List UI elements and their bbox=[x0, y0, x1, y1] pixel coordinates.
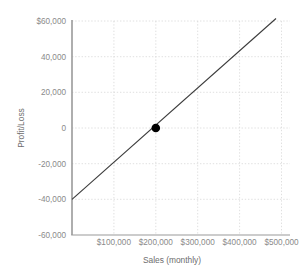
x-tick-label-100000: $100,000 bbox=[97, 238, 132, 247]
y-tick-label-60000: $60,000 bbox=[36, 17, 66, 26]
chart-canvas: $60,000 40,000 20,000 0 -20,000 -40,000 … bbox=[0, 0, 300, 278]
x-axis-title: Sales (monthly) bbox=[143, 255, 201, 265]
x-tick-label-300000: $300,000 bbox=[181, 238, 216, 247]
x-tick-labels: $100,000 $200,000 $300,000 $400,000 $500… bbox=[97, 238, 299, 247]
y-tick-label-0: 0 bbox=[61, 124, 66, 133]
y-axis-title: Profit/Loss bbox=[16, 108, 26, 148]
y-tick-label-40000: 40,000 bbox=[41, 53, 66, 62]
y-tick-label-minus20000: -20,000 bbox=[38, 160, 66, 169]
x-tick-label-400000: $400,000 bbox=[223, 238, 258, 247]
y-tick-label-20000: 20,000 bbox=[41, 88, 66, 97]
y-tick-label-minus60000: -60,000 bbox=[38, 231, 66, 240]
break-even-chart: $60,000 40,000 20,000 0 -20,000 -40,000 … bbox=[0, 0, 300, 278]
y-tick-label-minus40000: -40,000 bbox=[38, 195, 66, 204]
x-tick-label-200000: $200,000 bbox=[139, 238, 174, 247]
x-tick-label-500000: $500,000 bbox=[264, 238, 299, 247]
break-even-point-marker bbox=[152, 124, 161, 133]
